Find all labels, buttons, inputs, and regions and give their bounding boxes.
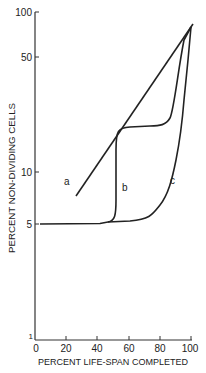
- x-tick-label: 0: [33, 343, 39, 354]
- x-tick-label: 100: [182, 343, 199, 354]
- y-tick-label: 50: [21, 52, 33, 63]
- y-tick-label: 5: [26, 219, 32, 230]
- x-tick-label: 40: [91, 343, 103, 354]
- y-tick-label: 100: [15, 7, 32, 18]
- x-tick-label: 80: [154, 343, 166, 354]
- curve-c-label: c: [170, 175, 175, 186]
- curve-a-label: a: [64, 176, 70, 187]
- y-axis-label: PERCENT NON-DIVIDING CELLS: [6, 103, 17, 253]
- chart: 100 50 10 5 1 0 20 40 60 80 100 PERCENT …: [0, 0, 206, 373]
- y-tick-label: 1: [29, 332, 34, 341]
- curve-a: [76, 24, 193, 196]
- curve-b-label: b: [122, 182, 128, 193]
- y-tick-label: 10: [21, 167, 33, 178]
- x-tick-label: 20: [60, 343, 72, 354]
- x-axis-label: PERCENT LIFE-SPAN COMPLETED: [38, 356, 188, 367]
- x-tick-label: 60: [123, 343, 135, 354]
- curve-b: [40, 27, 191, 224]
- curve-c: [108, 27, 191, 222]
